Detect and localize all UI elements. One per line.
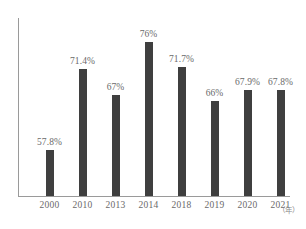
bar — [178, 67, 186, 196]
bar-group: 67.9% — [231, 18, 264, 196]
bar-group: 67.8% — [264, 18, 297, 196]
x-axis-tick-2019: 2019 — [198, 200, 231, 210]
x-axis-tick-2014: 2014 — [132, 200, 165, 210]
bar-chart: 57.8%71.4%67%76%71.7%66%67.9%67.8% 20002… — [0, 0, 306, 229]
bar — [244, 90, 252, 196]
bar-group: 66% — [198, 18, 231, 196]
x-axis-unit-label: （年） — [278, 204, 299, 215]
x-axis-tick-2000: 2000 — [33, 200, 66, 210]
bar-group: 71.4% — [66, 18, 99, 196]
bar-group: 71.7% — [165, 18, 198, 196]
bar-value-label: 71.4% — [70, 56, 95, 66]
x-axis-tick-labels: 20002010201320142018201920202021 — [19, 200, 290, 220]
bar-group: 67% — [99, 18, 132, 196]
bar — [46, 150, 54, 196]
x-axis-line — [18, 196, 290, 197]
bar-value-label: 57.8% — [37, 137, 62, 147]
x-axis-tick-2013: 2013 — [99, 200, 132, 210]
bar — [277, 90, 285, 196]
bar-value-label: 76% — [140, 29, 158, 39]
bar-value-label: 67.9% — [235, 77, 260, 87]
plot-area: 57.8%71.4%67%76%71.7%66%67.9%67.8% — [19, 18, 290, 196]
bar-value-label: 71.7% — [169, 54, 194, 64]
bar — [211, 101, 219, 196]
bar-value-label: 67.8% — [268, 77, 293, 87]
bar — [79, 69, 87, 196]
bar-value-label: 66% — [206, 88, 224, 98]
x-axis-tick-2018: 2018 — [165, 200, 198, 210]
bar-group: 76% — [132, 18, 165, 196]
bar — [112, 95, 120, 196]
x-axis-tick-2010: 2010 — [66, 200, 99, 210]
bar-value-label: 67% — [107, 82, 125, 92]
bar-group: 57.8% — [33, 18, 66, 196]
bar — [145, 42, 153, 196]
x-axis-tick-2020: 2020 — [231, 200, 264, 210]
